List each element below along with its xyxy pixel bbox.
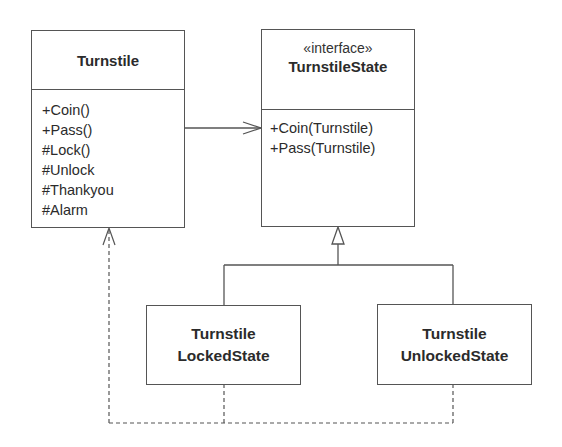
class-name-line1: Turnstile: [422, 323, 486, 345]
operation: #Lock(): [42, 140, 114, 160]
turnstile-state-name-compartment: «interface» TurnstileState: [262, 30, 414, 110]
operation: +Coin(Turnstile): [270, 118, 375, 138]
class-turnstile[interactable]: Turnstile +Coin() +Pass() #Lock() #Unloc…: [31, 30, 185, 228]
operation: #Alarm: [42, 200, 114, 220]
class-turnstile-unlocked-state[interactable]: Turnstile UnlockedState: [377, 304, 532, 385]
class-turnstile-locked-state[interactable]: Turnstile LockedState: [146, 305, 301, 385]
operation: +Pass(): [42, 120, 114, 140]
operation: #Unlock: [42, 160, 114, 180]
turnstile-operations: +Coin() +Pass() #Lock() #Unlock #Thankyo…: [42, 100, 114, 220]
turnstile-name-compartment: Turnstile: [32, 31, 184, 90]
stereotype-label: «interface»: [303, 39, 372, 57]
turnstile-state-operations: +Coin(Turnstile) +Pass(Turnstile): [270, 118, 375, 158]
operation: #Thankyou: [42, 180, 114, 200]
class-name: TurnstileState: [289, 57, 388, 76]
interface-turnstile-state[interactable]: «interface» TurnstileState +Coin(Turnsti…: [261, 29, 415, 227]
realization-arrow: [224, 227, 453, 305]
class-name-line2: UnlockedState: [401, 345, 509, 367]
operation: +Pass(Turnstile): [270, 138, 375, 158]
class-name-line1: Turnstile: [191, 323, 255, 345]
class-name: Turnstile: [77, 51, 139, 70]
association-arrow: [184, 122, 261, 134]
operation: +Coin(): [42, 100, 114, 120]
class-name-line2: LockedState: [177, 345, 269, 367]
